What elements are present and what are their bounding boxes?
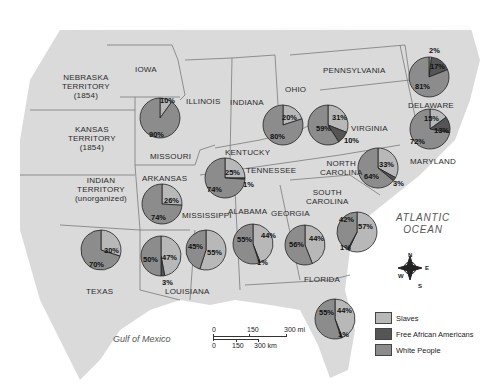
pct-va-slaves: 31% xyxy=(332,113,347,122)
legend-item-slaves: Slaves xyxy=(375,310,474,326)
pct-ga-slaves: 44% xyxy=(309,234,324,243)
pct-ar-white: 74% xyxy=(151,213,166,222)
swatch-free-african-americans xyxy=(375,328,392,340)
pct-fl-free: 1% xyxy=(338,330,349,339)
label-delaware: DELAWARE xyxy=(408,101,454,110)
label-georgia: GEORGIA xyxy=(271,209,310,218)
pct-ms-slaves: 55% xyxy=(207,248,222,257)
pct-md-free: 13% xyxy=(434,126,449,135)
label-kansas: KANSASTERRITORY(1854) xyxy=(68,125,116,152)
label-florida: FLORIDA xyxy=(304,275,340,284)
compass-s: S xyxy=(418,283,422,289)
pct-md-slaves: 15% xyxy=(424,114,439,123)
map-canvas: NEBRASKATERRITORY(1854) KANSASTERRITORY(… xyxy=(0,0,504,392)
pct-tx-white: 70% xyxy=(89,260,104,269)
label-indiana: INDIANA xyxy=(230,98,264,107)
pct-de-free: 17% xyxy=(430,62,445,71)
pct-md-white: 72% xyxy=(410,137,425,146)
label-iowa: IOWA xyxy=(135,65,157,74)
pct-la-white: 50% xyxy=(143,255,158,264)
label-pennsylvania: PENNSYLVANIA xyxy=(323,66,386,75)
label-maryland: MARYLAND xyxy=(410,157,456,166)
label-alabama: ALABAMA xyxy=(228,207,267,216)
pct-ar-slaves: 26% xyxy=(164,196,179,205)
pct-ga-white: 56% xyxy=(289,240,304,249)
legend-item-white-people: White People xyxy=(375,342,474,358)
pct-fl-slaves: 44% xyxy=(337,306,352,315)
legend-item-free-african-americans: Free African Americans xyxy=(375,326,474,342)
pct-al-free: 1% xyxy=(257,258,268,267)
pct-la-free: 3% xyxy=(162,278,173,287)
label-indian-territory: INDIANTERRITORY(unorganized) xyxy=(75,176,127,203)
compass-w: W xyxy=(398,273,404,279)
label-virginia: VIRGINIA xyxy=(351,124,388,133)
label-louisiana: LOUISIANA xyxy=(165,287,209,296)
label-kentucky: KENTUCKY xyxy=(225,148,270,157)
pie-florida xyxy=(315,299,355,339)
label-ohio: OHIO xyxy=(285,85,306,94)
pct-al-slaves: 44% xyxy=(261,231,276,240)
legend: Slaves Free African Americans White Peop… xyxy=(375,310,474,358)
pct-tx-slaves: 30% xyxy=(104,246,119,255)
pct-de-white: 81% xyxy=(415,82,430,91)
pct-sc-white: 42% xyxy=(339,215,354,224)
pct-nc-white: 64% xyxy=(364,172,379,181)
label-arkansas: ARKANSAS xyxy=(142,174,187,183)
pct-nc-slaves: 33% xyxy=(379,160,394,169)
swatch-slaves xyxy=(375,312,392,324)
pct-ms-white: 45% xyxy=(188,242,203,251)
pct-ohio-slaves: 20% xyxy=(282,113,297,122)
label-missouri: MISSOURI xyxy=(150,152,191,161)
pct-va-free: 10% xyxy=(344,136,359,145)
pct-sc-free: 1% xyxy=(340,243,351,252)
pct-tn-white: 74% xyxy=(207,185,222,194)
label-nebraska: NEBRASKATERRITORY(1854) xyxy=(62,73,110,100)
pct-fl-white: 55% xyxy=(319,308,334,317)
pct-ohio-white: 80% xyxy=(270,132,285,141)
label-north-carolina: NORTHCAROLINA xyxy=(320,159,363,177)
label-atlantic-ocean: ATLANTICOCEAN xyxy=(396,212,450,236)
label-tennessee: TENNESSEE xyxy=(246,166,296,175)
pct-tn-slaves: 25% xyxy=(225,168,240,177)
scale-bar: 0 150 300 mi 0 150 300 km xyxy=(210,326,320,356)
pct-al-white: 55% xyxy=(237,235,252,244)
label-south-carolina: SOUTHCAROLINA xyxy=(306,188,349,206)
label-texas: TEXAS xyxy=(86,287,113,296)
pct-la-slaves: 47% xyxy=(162,253,177,262)
compass-e: E xyxy=(425,265,429,271)
pct-missouri-slaves: 10% xyxy=(160,96,175,105)
pct-sc-slaves: 57% xyxy=(358,222,373,231)
swatch-white-people xyxy=(375,344,392,356)
label-illinois: ILLINOIS xyxy=(186,97,221,106)
pct-missouri-white: 90% xyxy=(149,130,164,139)
pct-va-white: 59% xyxy=(316,124,331,133)
label-mississippi: MISSISSIPPI xyxy=(182,211,232,220)
pct-nc-free: 3% xyxy=(393,179,404,188)
label-gulf-of-mexico: Gulf of Mexico xyxy=(113,334,171,344)
pct-de-slaves: 2% xyxy=(429,46,440,55)
compass-n: N xyxy=(408,252,412,258)
pct-tn-free: 1% xyxy=(243,180,254,189)
